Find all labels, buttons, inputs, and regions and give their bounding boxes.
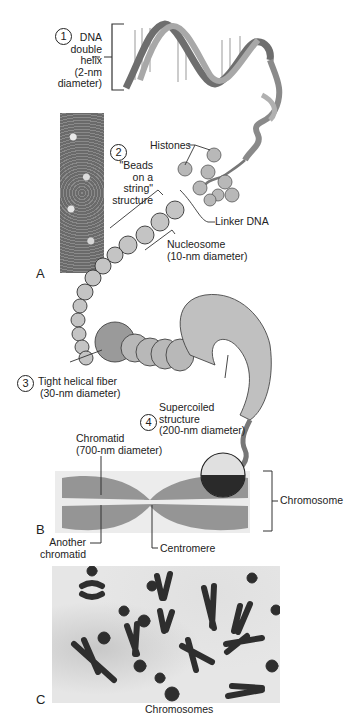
centromere-label: Centromere [160,543,215,555]
supercoiled-label: Supercoiled structure (200-nm diameter) [159,402,245,437]
another-chromatid-label: Another chromatid [30,537,86,560]
label-line: (700-nm diameter) [76,445,162,457]
dna-bracket [104,24,124,90]
panel-c-letter: C [36,692,45,707]
helical-fiber-label: Tight helical fiber (30-nm diameter) [38,376,121,399]
label-line: DNA [55,32,102,44]
chromatin-diagram [0,0,355,716]
dna-helix-label: DNA double helix (2-nm diameter) [55,32,102,90]
chromatin-magnified [201,453,245,497]
chromosome-label: Chromosome [280,495,343,507]
level-3-marker: 3 [17,375,34,392]
label-line: (10-nm diameter) [167,251,248,263]
label-line: chromatid [30,549,86,561]
label-line: Another [30,537,86,549]
label-line: helix [55,55,102,67]
label-line: Supercoiled [159,402,245,414]
level-4-marker: 4 [140,414,157,431]
label-line: diameter) [55,78,102,90]
linker-dna-label: Linker DNA [215,216,269,228]
panel-b-letter: B [36,522,45,537]
label-line: (30-nm diameter) [38,388,121,400]
histones-label: Histones [150,140,191,152]
label-line: Tight helical fiber [38,376,121,388]
helical-fiber [95,322,194,371]
beads-on-string-label: "Beads on a string" structure [105,160,153,206]
label-line: (200-nm diameter) [159,425,245,437]
label-line: Nucleosome [167,239,248,251]
nucleosome-label: Nucleosome (10-nm diameter) [167,239,248,262]
chromatid-label: Chromatid (700-nm diameter) [76,433,162,456]
panel-a-letter: A [36,266,45,281]
supercoiled-structure [180,294,271,478]
histone-beads [178,148,239,206]
label-line: "Beads [105,160,153,172]
chromosomes-caption: Chromosomes [145,704,213,716]
label-line: structure [105,195,153,207]
label-line: Chromatid [76,433,162,445]
label-line: string" [105,183,153,195]
